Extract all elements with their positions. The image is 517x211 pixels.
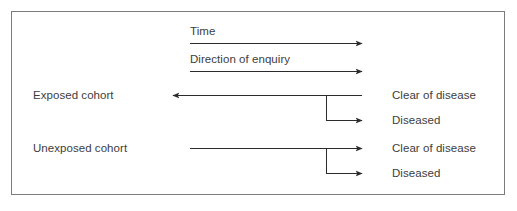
unexposed-outcome-diseased-label: Diseased (392, 167, 440, 180)
exposed-outcome-clear-label: Clear of disease (392, 89, 476, 102)
exposed-outcome-diseased-label: Diseased (392, 114, 440, 127)
direction-of-enquiry-label: Direction of enquiry (190, 53, 290, 66)
diagram-root: Time Direction of enquiry Exposed cohort… (0, 0, 517, 211)
unexposed-outcome-clear-label: Clear of disease (392, 142, 476, 155)
exposed-cohort-label: Exposed cohort (33, 89, 114, 102)
time-label: Time (190, 25, 215, 38)
unexposed-cohort-label: Unexposed cohort (33, 142, 127, 155)
